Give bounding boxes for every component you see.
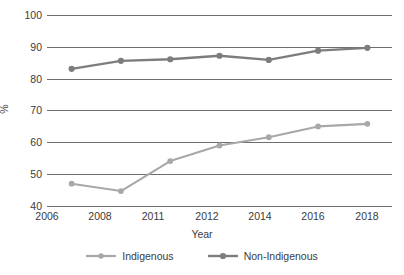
series-indigenous — [69, 121, 371, 194]
data-point[interactable] — [69, 66, 75, 72]
x-tick-label-2014: 2014 — [237, 210, 283, 222]
y-tick-label-100: 100 — [2, 10, 42, 20]
data-point[interactable] — [167, 158, 173, 164]
legend-item-indigenous[interactable]: Indigenous — [86, 250, 173, 262]
line-chart: % 100 90 80 70 60 50 40 2006 2008 2011 2… — [0, 0, 404, 275]
y-tick-label-50: 50 — [2, 169, 42, 179]
x-tick-label-2011: 2011 — [130, 210, 176, 222]
legend-line-marker-icon — [86, 251, 116, 261]
data-point[interactable] — [315, 48, 321, 54]
data-point[interactable] — [216, 53, 222, 59]
y-tick-label-90: 90 — [2, 42, 42, 52]
data-point[interactable] — [69, 181, 75, 187]
data-point[interactable] — [118, 188, 124, 194]
y-tick-label-60: 60 — [2, 137, 42, 147]
x-tick-label-2006: 2006 — [24, 210, 70, 222]
x-tick-label-2012: 2012 — [184, 210, 230, 222]
x-tick-label-2018: 2018 — [344, 210, 390, 222]
data-point[interactable] — [364, 121, 370, 127]
data-point[interactable] — [315, 124, 321, 130]
legend-item-non-indigenous[interactable]: Non-Indigenous — [208, 250, 318, 262]
y-tick-label-70: 70 — [2, 105, 42, 115]
plot-area — [47, 15, 392, 206]
x-axis-title: Year — [0, 228, 404, 240]
y-tick-label-80: 80 — [2, 74, 42, 84]
legend-line-marker-icon — [208, 251, 238, 261]
legend-label-non-indigenous: Non-Indigenous — [244, 250, 318, 262]
series-non-indigenous — [69, 45, 371, 72]
series-line — [72, 124, 368, 191]
data-point[interactable] — [266, 57, 272, 63]
legend-label-indigenous: Indigenous — [122, 250, 173, 262]
x-tick-label-2008: 2008 — [77, 210, 123, 222]
data-point[interactable] — [364, 45, 370, 51]
data-point[interactable] — [118, 58, 124, 64]
data-point[interactable] — [167, 56, 173, 62]
data-point[interactable] — [266, 134, 272, 140]
x-tick-label-2016: 2016 — [290, 210, 336, 222]
data-point[interactable] — [217, 143, 223, 149]
series-plot — [47, 15, 392, 206]
gridline-40 — [47, 206, 392, 207]
chart-legend: Indigenous Non-Indigenous — [0, 250, 404, 262]
